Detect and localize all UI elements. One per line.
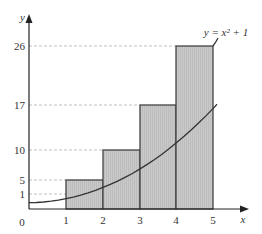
x-tick-1: 1: [63, 214, 69, 226]
bars: [66, 46, 213, 209]
origin-label: 0: [19, 216, 25, 228]
x-axis-label: x: [240, 213, 246, 225]
y-tick-5: 5: [20, 174, 26, 186]
y-tick-1: 1: [20, 188, 26, 200]
x-tick-5: 5: [210, 214, 216, 226]
curve-label: y = x² + 1: [203, 26, 248, 38]
riemann-sum-chart: 0 1 2 3 4 5 x 1 5 10 17 26 y y = x² + 1: [0, 0, 262, 234]
y-axis-label: y: [19, 11, 25, 23]
curve-extension: [213, 38, 218, 46]
y-tick-26: 26: [14, 40, 26, 52]
x-tick-4: 4: [173, 214, 179, 226]
y-tick-17: 17: [14, 99, 26, 111]
x-tick-3: 3: [137, 214, 143, 226]
x-tick-2: 2: [100, 214, 106, 226]
y-tick-10: 10: [14, 144, 26, 156]
x-axis-arrow-icon: [240, 206, 249, 213]
y-tick-labels: 1 5 10 17 26 y: [14, 11, 26, 200]
x-tick-labels: 0 1 2 3 4 5 x: [19, 213, 245, 228]
y-axis-arrow-icon: [26, 14, 33, 23]
